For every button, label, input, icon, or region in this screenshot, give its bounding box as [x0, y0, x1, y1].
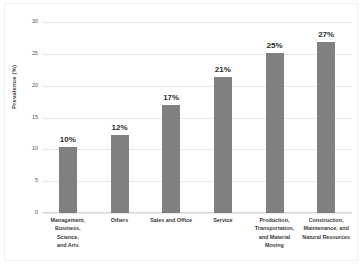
bar-value-label: 21%: [203, 66, 243, 74]
x-label-line: Business, Science,: [44, 224, 92, 241]
plot-area: 10%12%17%21%25%27%: [42, 22, 352, 213]
x-axis-label: Service: [199, 216, 247, 224]
bar-value-label: 17%: [151, 94, 191, 102]
x-axis-category-labels: Management,Business, Science,and ArtsOth…: [42, 216, 352, 262]
bar[interactable]: [59, 147, 77, 213]
x-label-line: Production,: [251, 216, 299, 224]
bar-chart: Prevalence (%) 051015202530 10%12%17%21%…: [0, 0, 363, 266]
bar-value-label: 10%: [48, 136, 88, 144]
x-axis-label: Sales and Office: [147, 216, 195, 224]
gridline: [42, 22, 352, 23]
bar[interactable]: [111, 135, 129, 213]
x-axis-label: Construction,Maintenance, andNatural Res…: [302, 216, 350, 241]
y-tick-label: 15: [18, 115, 38, 121]
gridline: [42, 213, 352, 214]
bar-value-label: 25%: [255, 42, 295, 50]
x-label-line: Sales and Office: [147, 216, 195, 224]
y-tick-label: 25: [18, 51, 38, 57]
x-label-line: Service: [199, 216, 247, 224]
bar-value-label: 12%: [100, 124, 140, 132]
gridline: [42, 181, 352, 182]
x-label-line: Moving: [251, 241, 299, 249]
x-label-line: Maintenance, and: [302, 224, 350, 232]
y-tick-label: 20: [18, 83, 38, 89]
x-label-line: Transportation,: [251, 224, 299, 232]
x-label-line: Construction,: [302, 216, 350, 224]
x-axis-label: Production,Transportation,and MaterialMo…: [251, 216, 299, 250]
bar[interactable]: [266, 53, 284, 213]
bar[interactable]: [162, 105, 180, 213]
bar-value-label: 27%: [306, 31, 346, 39]
y-tick-label: 0: [18, 210, 38, 216]
gridline: [42, 86, 352, 87]
bar[interactable]: [214, 77, 232, 213]
gridline: [42, 149, 352, 150]
x-label-line: and Material: [251, 233, 299, 241]
x-axis-label: Management,Business, Science,and Arts: [44, 216, 92, 250]
y-axis-ticks: 051015202530: [16, 22, 38, 213]
x-label-line: Natural Resources: [302, 233, 350, 241]
gridline: [42, 118, 352, 119]
y-tick-label: 5: [18, 178, 38, 184]
bar[interactable]: [317, 42, 335, 213]
x-label-line: and Arts: [44, 241, 92, 249]
x-label-line: Management,: [44, 216, 92, 224]
y-tick-label: 30: [18, 19, 38, 25]
gridline: [42, 54, 352, 55]
x-axis-label: Others: [96, 216, 144, 224]
y-tick-label: 10: [18, 146, 38, 152]
x-label-line: Others: [96, 216, 144, 224]
